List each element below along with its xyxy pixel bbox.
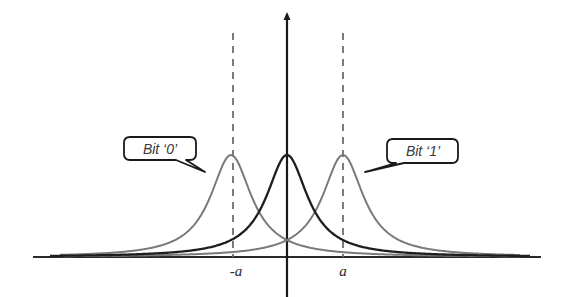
y-axis-arrowhead-icon	[284, 12, 291, 20]
pos-a-label: a	[339, 263, 347, 279]
bit-0-label: Bit ‘0’	[143, 141, 178, 157]
neg-a-label: -a	[230, 263, 243, 279]
bit-0-callout: Bit ‘0’	[124, 137, 205, 172]
bit-0-curve	[60, 155, 520, 256]
distribution-diagram: Bit ‘0’ Bit ‘1’ -a a	[0, 0, 573, 297]
bit-1-callout: Bit ‘1’	[365, 139, 458, 172]
bit-1-label: Bit ‘1’	[406, 143, 441, 159]
